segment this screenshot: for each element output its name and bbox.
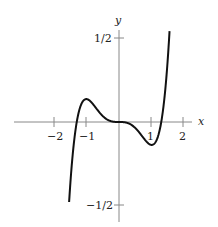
chart-canvas: −2 −1 1 2 1/2 −1/2 x y [0, 0, 218, 227]
x-axis-label: x [198, 115, 205, 128]
y-tick-label-half: 1/2 [94, 32, 112, 45]
y-axis-label: y [114, 14, 122, 27]
y-tick-label-mhalf: −1/2 [86, 199, 113, 212]
x-tick-label-1: 1 [147, 130, 154, 143]
x-tick-label-m2: −2 [47, 130, 63, 143]
x-tick-label-2: 2 [179, 130, 186, 143]
x-tick-label-m1: −1 [79, 130, 95, 143]
